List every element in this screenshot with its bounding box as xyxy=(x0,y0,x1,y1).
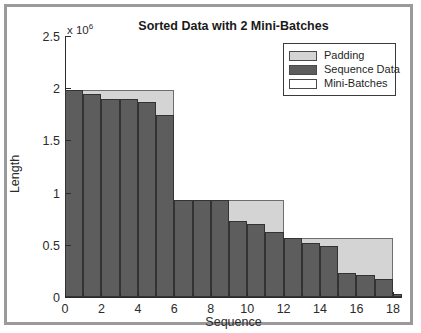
y-axis-tick xyxy=(66,36,71,37)
x-axis-tick-label: 18 xyxy=(386,302,400,316)
legend-item-padding: Padding xyxy=(289,49,390,62)
bar xyxy=(375,279,393,297)
x-axis-tick xyxy=(174,292,175,297)
y-axis-tick xyxy=(66,140,71,141)
y-axis-tick-label: 0.5 xyxy=(43,239,60,253)
y-axis-tick xyxy=(66,297,71,298)
y-axis-title: Length xyxy=(8,155,22,193)
bar xyxy=(193,200,211,297)
bar xyxy=(65,90,83,297)
bar xyxy=(138,102,156,297)
x-axis-tick-label: 2 xyxy=(98,302,105,316)
bar xyxy=(229,221,247,297)
legend-swatch-mini-batches-icon xyxy=(289,79,317,89)
x-axis-tick-label: 6 xyxy=(171,302,178,316)
bar xyxy=(356,275,374,297)
legend-label-mini-batches: Mini-Batches xyxy=(324,78,388,89)
x-axis-tick-label: 8 xyxy=(207,302,214,316)
x-axis-minor-tick xyxy=(338,294,339,297)
x-axis-minor-tick xyxy=(156,294,157,297)
x-axis-tick xyxy=(393,292,394,297)
legend-label-sequence-data: Sequence Data xyxy=(324,64,400,75)
bar xyxy=(120,99,138,297)
legend-item-sequence-data: Sequence Data xyxy=(289,63,390,76)
legend-item-mini-batches: Mini-Batches xyxy=(289,77,390,90)
x-axis-tick xyxy=(284,292,285,297)
x-axis-tick-label: 4 xyxy=(134,302,141,316)
x-axis-tick xyxy=(247,292,248,297)
x-axis-minor-tick xyxy=(193,294,194,297)
x-axis-tick xyxy=(65,292,66,297)
figure-frame: Sorted Data with 2 Mini-Batches x 106 Le… xyxy=(4,4,413,325)
y-axis-tick-label: 2.5 xyxy=(43,30,60,44)
bar xyxy=(320,246,338,297)
x-axis-tick xyxy=(356,292,357,297)
x-axis-line xyxy=(65,297,402,298)
y-axis-tick-label: 1.5 xyxy=(43,134,60,148)
bar xyxy=(83,94,101,297)
x-axis-tick xyxy=(101,292,102,297)
x-axis-title: Sequence xyxy=(65,315,402,329)
y-axis-tick xyxy=(66,245,71,246)
bar xyxy=(265,232,283,297)
y-axis-exponent-power: 6 xyxy=(89,22,93,31)
bar xyxy=(101,99,119,297)
chart-legend: Padding Sequence Data Mini-Batches xyxy=(283,43,396,96)
y-axis-tick-label: 0 xyxy=(53,291,60,305)
bar xyxy=(393,294,402,297)
x-axis-tick-label: 12 xyxy=(277,302,291,316)
legend-swatch-padding-icon xyxy=(289,51,317,61)
x-axis-tick xyxy=(211,292,212,297)
x-axis-tick-label: 16 xyxy=(350,302,364,316)
x-axis-minor-tick xyxy=(229,294,230,297)
bar xyxy=(211,200,229,297)
bar xyxy=(247,224,265,297)
y-axis-tick xyxy=(66,193,71,194)
legend-label-padding: Padding xyxy=(324,50,364,61)
bar xyxy=(302,243,320,297)
x-axis-minor-tick xyxy=(120,294,121,297)
x-axis-tick-label: 14 xyxy=(313,302,327,316)
bar xyxy=(156,115,174,297)
bar xyxy=(284,238,302,298)
bar xyxy=(174,200,192,297)
x-axis-tick-label: 10 xyxy=(240,302,254,316)
x-axis-tick xyxy=(138,292,139,297)
y-axis-tick-label: 1 xyxy=(53,187,60,201)
x-axis-tick-label: 0 xyxy=(62,302,69,316)
chart-title: Sorted Data with 2 Mini-Batches xyxy=(65,19,402,33)
x-axis-tick xyxy=(320,292,321,297)
bar xyxy=(338,273,356,297)
x-axis-minor-tick xyxy=(375,294,376,297)
x-axis-minor-tick xyxy=(83,294,84,297)
y-axis-tick xyxy=(66,88,71,89)
x-axis-minor-tick xyxy=(302,294,303,297)
y-axis-tick-label: 2 xyxy=(53,82,60,96)
y-axis-exponent-base: x 10 xyxy=(67,24,89,36)
y-axis-exponent: x 106 xyxy=(67,22,93,36)
x-axis-minor-tick xyxy=(265,294,266,297)
legend-swatch-sequence-data-icon xyxy=(289,65,317,75)
